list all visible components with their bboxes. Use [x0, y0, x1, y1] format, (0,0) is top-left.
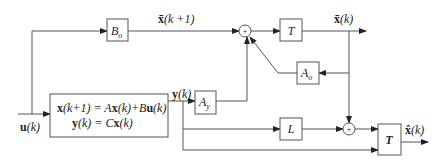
- plant-state-equation: x(k+1) = Ax(k)+Bu(k): [57, 101, 166, 115]
- Ao-to-sum-wire: [250, 37, 297, 73]
- upper-sum-plus: +: [243, 27, 248, 36]
- L-label: L: [287, 122, 295, 136]
- block-diagram: Bo x̄(k +1) + + T x̄(k) Ao x(k+1) = Ax(k…: [0, 0, 443, 164]
- T-lower-label: T: [385, 133, 393, 147]
- plant-output-equation: y(k) = Cx(k): [72, 116, 133, 130]
- Ay-to-sum-wire: [216, 37, 247, 101]
- lower-sum-plus: +: [347, 125, 352, 134]
- xbar-label: x̄(k): [334, 12, 353, 26]
- xbar-next-label: x̄(k +1): [158, 12, 194, 26]
- xhat-label: x̂(k): [405, 123, 424, 137]
- input-label: u(k): [20, 120, 40, 134]
- plant-output-label: y(k): [172, 87, 191, 101]
